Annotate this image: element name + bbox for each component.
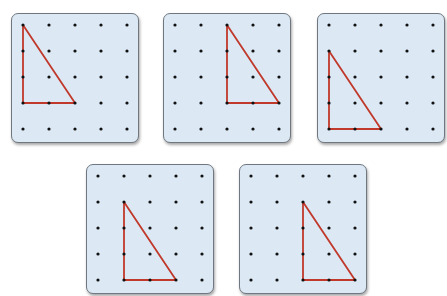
geoboard-3	[317, 13, 445, 143]
peg-dot	[125, 49, 128, 52]
peg-dot	[249, 200, 252, 203]
peg-dot	[47, 75, 50, 78]
peg-dot	[73, 75, 76, 78]
peg-dot	[174, 174, 177, 177]
peg-dot	[353, 49, 356, 52]
peg-dot	[96, 278, 99, 281]
peg-dot	[301, 226, 304, 229]
peg-dot	[431, 49, 434, 52]
peg-dot	[405, 75, 408, 78]
peg-dot	[73, 101, 76, 104]
peg-dot	[99, 75, 102, 78]
peg-dot	[379, 49, 382, 52]
peg-dot	[47, 23, 50, 26]
peg-dot	[96, 252, 99, 255]
peg-dot	[301, 174, 304, 177]
peg-dot	[73, 127, 76, 130]
peg-dot	[96, 174, 99, 177]
peg-dot	[125, 101, 128, 104]
peg-dot	[277, 49, 280, 52]
peg-dot	[21, 101, 24, 104]
peg-dot	[249, 226, 252, 229]
peg-dot	[277, 75, 280, 78]
peg-dot	[249, 252, 252, 255]
peg-dot	[379, 75, 382, 78]
geoboard-4	[86, 164, 214, 294]
peg-dot	[173, 101, 176, 104]
peg-dot	[225, 23, 228, 26]
peg-dot	[251, 75, 254, 78]
geoboard-2	[163, 13, 291, 143]
peg-dot	[301, 278, 304, 281]
peg-dot	[249, 278, 252, 281]
peg-dot	[431, 75, 434, 78]
peg-dot	[353, 23, 356, 26]
peg-dot	[277, 127, 280, 130]
peg-dot	[353, 278, 356, 281]
peg-dot	[327, 200, 330, 203]
peg-dot	[174, 252, 177, 255]
peg-dot	[277, 101, 280, 104]
red-right-triangle	[124, 202, 176, 280]
peg-dot	[96, 226, 99, 229]
peg-dot	[200, 200, 203, 203]
peg-dot	[327, 174, 330, 177]
peg-dot	[73, 23, 76, 26]
peg-dot	[125, 127, 128, 130]
geoboard-grid	[239, 164, 369, 296]
geoboard-grid	[317, 13, 447, 145]
peg-dot	[225, 75, 228, 78]
peg-dot	[327, 278, 330, 281]
peg-dot	[275, 278, 278, 281]
peg-dot	[125, 75, 128, 78]
red-right-triangle	[303, 202, 355, 280]
peg-dot	[251, 23, 254, 26]
peg-dot	[327, 23, 330, 26]
geoboard-grid	[86, 164, 216, 296]
peg-dot	[249, 174, 252, 177]
peg-dot	[99, 23, 102, 26]
geoboard-5	[239, 164, 367, 294]
peg-dot	[275, 174, 278, 177]
peg-dot	[199, 23, 202, 26]
peg-dot	[379, 127, 382, 130]
peg-dot	[405, 23, 408, 26]
peg-dot	[21, 49, 24, 52]
red-right-triangle	[227, 25, 279, 103]
peg-dot	[379, 23, 382, 26]
peg-dot	[99, 49, 102, 52]
peg-dot	[148, 200, 151, 203]
red-right-triangle	[329, 51, 381, 129]
peg-dot	[148, 174, 151, 177]
peg-dot	[275, 226, 278, 229]
peg-dot	[251, 127, 254, 130]
peg-dot	[275, 252, 278, 255]
peg-dot	[353, 200, 356, 203]
peg-dot	[122, 200, 125, 203]
peg-dot	[174, 200, 177, 203]
peg-dot	[73, 49, 76, 52]
peg-dot	[173, 49, 176, 52]
peg-dot	[353, 75, 356, 78]
peg-dot	[47, 101, 50, 104]
peg-dot	[251, 49, 254, 52]
peg-dot	[431, 101, 434, 104]
geoboard-1	[11, 13, 139, 143]
peg-dot	[200, 278, 203, 281]
peg-dot	[225, 127, 228, 130]
geoboard-grid	[11, 13, 141, 145]
peg-dot	[99, 127, 102, 130]
peg-dot	[327, 101, 330, 104]
peg-dot	[301, 200, 304, 203]
peg-dot	[173, 127, 176, 130]
peg-dot	[199, 101, 202, 104]
peg-dot	[327, 75, 330, 78]
peg-dot	[199, 127, 202, 130]
peg-dot	[122, 278, 125, 281]
peg-dot	[47, 49, 50, 52]
peg-dot	[327, 49, 330, 52]
peg-dot	[327, 252, 330, 255]
peg-dot	[431, 127, 434, 130]
peg-dot	[301, 252, 304, 255]
peg-dot	[122, 252, 125, 255]
